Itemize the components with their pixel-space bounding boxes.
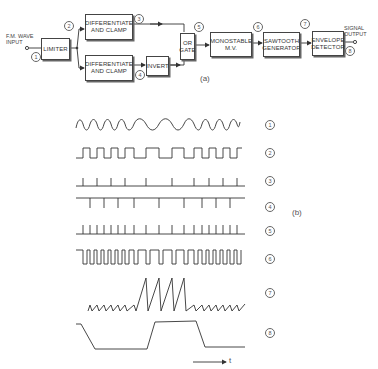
waveform-5 — [76, 225, 245, 234]
or-gate-block: OR GATE — [180, 33, 195, 60]
node-marker-5: 5 — [194, 22, 204, 32]
invert-block: INVERT — [146, 56, 169, 76]
differentiate-clamp-top-block: DIFFERENTIATE AND CLAMP — [85, 14, 133, 40]
waveform-label-8: 8 — [265, 328, 275, 338]
output-label: SIGNAL OUTPUT — [344, 25, 374, 37]
waveform-4 — [76, 198, 245, 208]
envelope-detector-block: ENVELOPE DETECTOR — [312, 31, 344, 56]
figure-b-caption: (b) — [292, 208, 302, 217]
waveform-label-3: 3 — [265, 176, 275, 186]
waveforms — [76, 119, 245, 362]
node-marker-2: 2 — [64, 21, 74, 31]
input-label: F.M. WAVE INPUT — [6, 33, 40, 45]
waveform-1 — [76, 119, 240, 130]
node-marker-6: 6 — [253, 22, 263, 32]
time-axis-label: t — [229, 356, 231, 365]
waveform-3 — [76, 178, 245, 186]
node-marker-3: 3 — [134, 14, 144, 24]
node-marker-4: 4 — [135, 70, 145, 80]
sawtooth-generator-block: SAWTOOTH GENERATOR — [263, 32, 300, 57]
monostable-block: MONOSTABLE M.V. — [210, 32, 252, 57]
figure-a-caption: (a) — [200, 74, 210, 83]
waveform-label-7: 7 — [265, 288, 275, 298]
node-marker-8: 8 — [345, 46, 355, 56]
waveform-label-2: 2 — [265, 148, 275, 158]
waveform-label-1: 1 — [265, 120, 275, 130]
waveform-6 — [76, 250, 241, 264]
node-marker-1: 1 — [31, 52, 41, 62]
waveform-2 — [76, 148, 242, 158]
waveform-label-6: 6 — [265, 254, 275, 264]
waveform-8 — [76, 321, 245, 349]
waveform-label-5: 5 — [265, 226, 275, 236]
waveform-7 — [88, 278, 245, 311]
differentiate-clamp-bottom-block: DIFFERENTIATE AND CLAMP — [85, 55, 133, 81]
limiter-block: LIMITER — [41, 38, 70, 60]
waveform-label-4: 4 — [265, 202, 275, 212]
node-marker-7: 7 — [300, 19, 310, 29]
